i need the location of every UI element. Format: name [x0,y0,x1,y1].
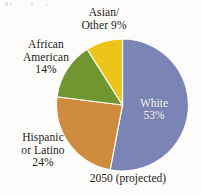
scan-artifact [46,4,48,6]
pie-chart-figure: Asian/ Other 9% African American 14% His… [0,0,202,195]
slice-label-asian-other: Asian/ Other 9% [62,6,146,31]
scan-artifact [5,2,8,6]
slice-label-african-american: African American 14% [6,38,86,76]
slice-label-white: White 53% [130,97,178,122]
scan-artifact [10,3,12,6]
slice-label-hispanic-or-latino: Hispanic or Latino 24% [2,131,84,169]
chart-caption: 2050 (projected) [62,172,194,185]
scan-artifact [31,2,33,6]
